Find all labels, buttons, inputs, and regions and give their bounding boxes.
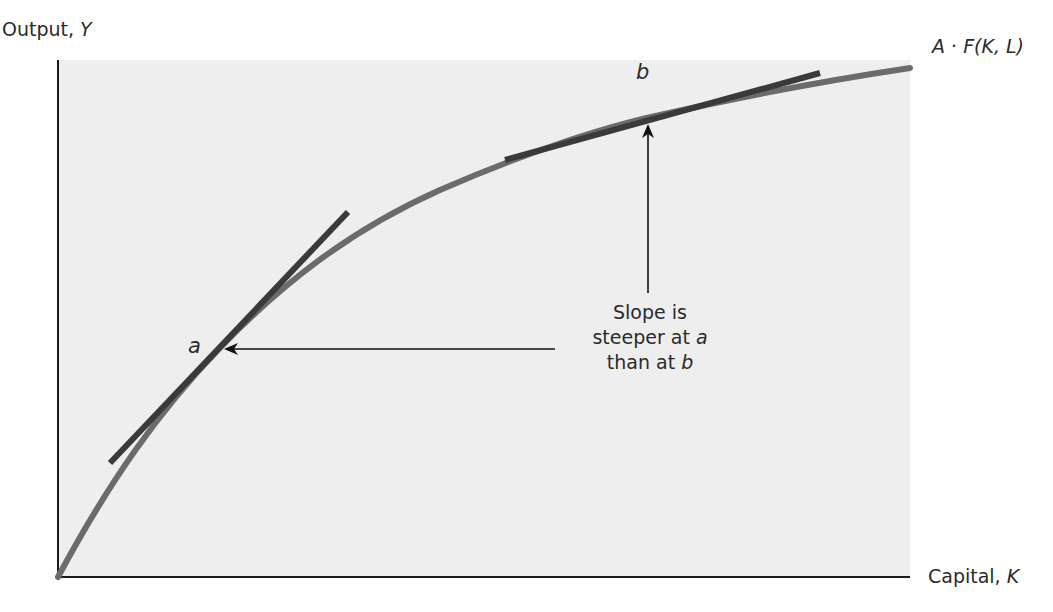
y-axis-variable: Y <box>80 18 92 40</box>
annotation-line-1: Slope is <box>560 300 740 325</box>
y-axis-label: Output, Y <box>2 20 92 39</box>
annotation-line-3-text: than at <box>607 351 681 373</box>
y-axis-label-text: Output, <box>2 18 80 40</box>
x-axis-label-text: Capital, <box>928 565 1007 587</box>
plot-area <box>58 60 910 577</box>
annotation-line-2-var: a <box>696 326 708 348</box>
annotation-line-2: steeper at a <box>560 325 740 350</box>
x-axis-label: Capital, K <box>928 567 1019 586</box>
curve-label-args: (K, L) <box>974 35 1024 57</box>
annotation-line-2-text: steeper at <box>592 326 695 348</box>
x-axis-variable: K <box>1007 565 1019 587</box>
curve-label: A · F(K, L) <box>932 37 1024 56</box>
point-label-a: a <box>188 336 201 357</box>
annotation-line-3: than at b <box>560 350 740 375</box>
curve-label-A: A <box>932 35 945 57</box>
annotation-line-3-var: b <box>681 351 693 373</box>
curve-label-dot: · <box>945 35 963 57</box>
slope-annotation: Slope is steeper at a than at b <box>560 300 740 375</box>
curve-label-F: F <box>963 35 974 57</box>
production-function-diagram: Output, Y Capital, K A · F(K, L) a b Slo… <box>0 0 1053 612</box>
point-label-b: b <box>636 62 649 83</box>
diagram-canvas <box>0 0 1053 612</box>
